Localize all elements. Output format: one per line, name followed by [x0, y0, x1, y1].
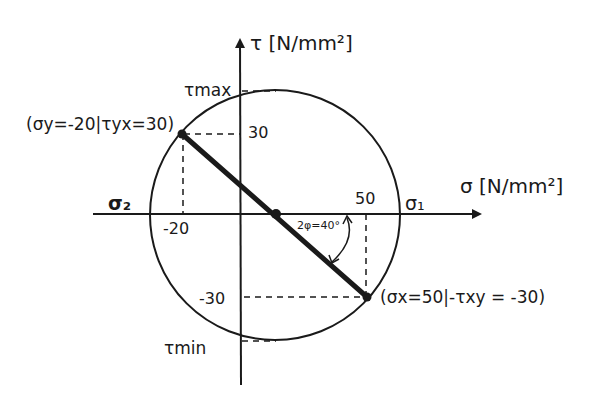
tick-label-neg30: -30 — [199, 289, 225, 308]
tau-axis — [240, 40, 241, 385]
mohr-circle-diagram: τ [N/mm²] σ [N/mm²] τmax τmin σ₂ σ₁ 30 -… — [0, 0, 606, 408]
tick-label-50: 50 — [355, 189, 375, 208]
tau-axis-label: τ [N/mm²] — [250, 31, 353, 55]
sigma-axis-label: σ [N/mm²] — [460, 174, 563, 198]
center-point-marker — [271, 209, 281, 219]
tick-label-neg20: -20 — [163, 219, 189, 238]
point-lower-label: (σx=50|-τxy = -30) — [380, 287, 545, 307]
point-lower-marker — [363, 293, 372, 302]
tau-min-label: τmin — [164, 338, 206, 358]
point-upper-label: (σy=-20|τyx=30) — [26, 114, 174, 134]
point-upper-marker — [178, 130, 187, 139]
angle-label: 2φ=40° — [297, 219, 340, 232]
diameter-line — [178, 130, 372, 302]
sigma-2-label: σ₂ — [108, 192, 131, 214]
sigma-1-label: σ₁ — [405, 192, 425, 214]
tick-label-30: 30 — [248, 123, 268, 142]
tau-max-label: τmax — [184, 80, 231, 100]
